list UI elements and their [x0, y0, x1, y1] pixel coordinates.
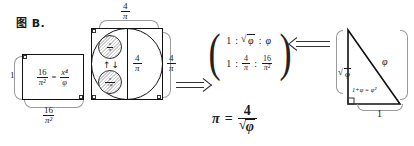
ratio1-sep2: :: [259, 35, 262, 46]
figure-caption: 图 B.: [16, 14, 45, 30]
pi-denominator-radicand: φ: [245, 119, 255, 134]
ratio1-sep1: :: [235, 35, 238, 46]
square-top-label: 4 π: [121, 2, 130, 21]
rect-lhs-fraction: 16 π²: [36, 68, 49, 86]
triangle-vertical-sqrt: φ: [339, 68, 351, 79]
ratio-expression: ( 1 : φ : φ 1 : 4 π : 16 π²: [206, 22, 294, 84]
corner-tick-icon: [157, 95, 161, 99]
arrow-shaft: [296, 41, 330, 47]
rect-width-denominator: π²: [43, 115, 54, 125]
triangle-brace-right: [400, 30, 408, 100]
square-middle-fraction: 4 π: [133, 54, 142, 73]
pi-equals-sign: =: [225, 111, 233, 127]
ratio-row-pi: 1 : 4 π : 16 π²: [226, 55, 273, 72]
pi-symbol: π: [212, 111, 220, 127]
square-top-denominator: π: [121, 11, 130, 21]
pi-numerator: 4: [242, 104, 253, 118]
triangle-vertical-radicand: φ: [344, 68, 351, 79]
brace-left: [14, 56, 22, 100]
mini-circle-top-denominator: π: [107, 47, 113, 53]
rect-lhs-numerator: 16: [36, 68, 49, 77]
ratio2-term3-denominator: π²: [262, 63, 272, 72]
square-right-numerator: 4: [167, 54, 176, 63]
ratio-rows: 1 : φ : φ 1 : 4 π : 16 π²: [223, 34, 276, 72]
ratio2-term3-numerator: 16: [261, 55, 273, 63]
implies-arrow-right-icon: [176, 82, 204, 88]
arrow-shaft: [176, 82, 204, 88]
rect-lhs-denominator: π²: [37, 77, 48, 87]
triangle-vertical-label: φ: [339, 68, 351, 79]
implies-arrow-left-icon: [296, 41, 330, 47]
corner-tick-icon: [92, 29, 96, 33]
ratio2-sep1: :: [235, 58, 238, 69]
ratio1-term2-radicand: φ: [247, 34, 255, 46]
square-right-fraction: 4 π: [167, 54, 176, 73]
triangle-hypotenuse-label: φ: [382, 56, 388, 67]
ratio2-term1: 1: [226, 58, 231, 69]
square-middle-numerator: 4: [133, 54, 142, 63]
mini-circle-top: x π: [98, 35, 122, 59]
corner-tick-icon: [79, 95, 83, 99]
rect-width-fraction: 16 π²: [42, 106, 55, 125]
ratio2-term2-fraction: 4 π: [242, 55, 250, 72]
rect-rhs-numerator: x⁴: [59, 68, 70, 77]
arrow-head: [286, 37, 297, 52]
pi-fraction: 4 φ: [238, 104, 257, 134]
ratio2-term2-numerator: 4: [242, 55, 250, 63]
corner-tick-icon: [23, 55, 27, 59]
square-right-label: 4 π: [167, 54, 176, 73]
triangle-brace-left: [336, 30, 343, 94]
triangle-base-label: 1: [377, 108, 382, 119]
rect-height-label: 1: [10, 70, 15, 80]
ratio1-term3: φ: [265, 35, 271, 46]
rect-rhs-denominator: φ: [60, 77, 69, 87]
square-top-fraction: 4 π: [121, 2, 130, 21]
rect-rhs-fraction: x⁴ φ: [59, 68, 70, 86]
rect-width-label: 16 π²: [42, 106, 55, 125]
ratio2-term2-denominator: π: [242, 63, 250, 72]
ratio2-sep2: :: [254, 58, 257, 69]
corner-tick-icon: [92, 95, 96, 99]
brace-top: [99, 20, 159, 28]
left-rectangle-equation: 16 π² = x⁴ φ: [22, 54, 84, 100]
pi-denominator: φ: [238, 118, 257, 134]
mini-circle-bottom: x √φ: [98, 70, 122, 94]
ratio2-term3-fraction: 16 π²: [261, 55, 273, 72]
figure-canvas: 图 B. 16 π² = x⁴ φ 1 16 π² x π: [0, 0, 414, 146]
triangle-inner-identity-label: 1+φ = φ²: [352, 86, 376, 93]
square-middle-label: 4 π: [133, 54, 142, 73]
ratio1-term1: 1: [226, 35, 231, 46]
ratio-row-golden: 1 : φ : φ: [226, 34, 271, 46]
rect-equals-sign: =: [51, 72, 56, 82]
square-top-numerator: 4: [121, 2, 130, 11]
ratio1-term2-sqrt-phi: φ: [242, 34, 255, 46]
mini-circle-top-fraction: x π: [107, 42, 113, 52]
rect-width-numerator: 16: [42, 106, 55, 115]
up-down-arrows-icon: ↑↓: [103, 60, 119, 70]
pi-denominator-sqrt: φ: [240, 119, 255, 134]
mini-circle-bottom-denominator: √φ: [105, 82, 114, 88]
square-middle-denominator: π: [133, 63, 142, 73]
pi-formula: π = 4 φ: [212, 104, 257, 134]
mini-circle-bottom-fraction: x √φ: [105, 77, 114, 87]
square-vertical-divider: [127, 28, 128, 100]
square-right-denominator: π: [167, 63, 176, 73]
